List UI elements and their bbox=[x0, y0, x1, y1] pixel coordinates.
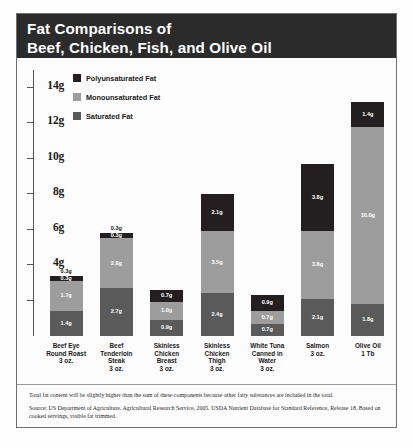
x-axis-label: BeefTenderloinSteak3 oz. bbox=[91, 342, 141, 372]
bar-segment: 0.7g bbox=[150, 290, 183, 302]
bar-segment: 1.8g bbox=[351, 304, 384, 336]
bar-segment: 0.7g bbox=[251, 311, 284, 323]
bar-segment-label: 0.7g bbox=[262, 315, 273, 321]
bar-segment: 1.0g bbox=[150, 302, 183, 320]
bar-column: 0.7g1.0g0.9g bbox=[150, 70, 183, 336]
chart-page: Fat Comparisons of Beef, Chicken, Fish, … bbox=[0, 0, 413, 448]
bar-column: 0.9g0.7g0.7g bbox=[251, 70, 284, 336]
bar-segment-label: 3.8g bbox=[312, 195, 323, 201]
x-axis-label-line: 3 oz. bbox=[192, 365, 242, 373]
y-axis-tick-mark bbox=[27, 193, 34, 194]
x-axis-label-line: 3 oz. bbox=[41, 357, 91, 365]
bar-column: 2.1g3.5g2.4g bbox=[201, 70, 234, 336]
x-axis-label-line: Olive Oil bbox=[343, 342, 393, 350]
footnote-total-fat: Total fat content will be slightly highe… bbox=[29, 391, 384, 399]
x-axis-labels: Beef EyeRound Roast3 oz.BeefTenderloinSt… bbox=[41, 342, 393, 384]
footnotes: Total fat content will be slightly highe… bbox=[17, 384, 396, 428]
x-axis-label-line: Tenderloin bbox=[91, 350, 141, 358]
x-axis-label-line: White Tuna bbox=[242, 342, 292, 350]
x-axis-label: White TunaCanned inWater3 oz. bbox=[242, 342, 292, 372]
bar-segment-label: 1.7g bbox=[61, 293, 72, 299]
x-axis-label: SkinlessChickenThigh3 oz. bbox=[192, 342, 242, 372]
bar-segment: 2.4g bbox=[201, 293, 234, 336]
bar-stack: 0.3g2.8g2.7g bbox=[100, 233, 133, 336]
bar-segment: 3.8g bbox=[301, 231, 334, 298]
bar-column: 3.8g3.8g2.1g bbox=[301, 70, 334, 336]
chart-title-line-1: Fat Comparisons of bbox=[27, 19, 396, 38]
bar-segment: 2.8g bbox=[100, 238, 133, 288]
bar-segment-label: 1.4g bbox=[61, 321, 72, 327]
bar-stack: 0.7g1.0g0.9g bbox=[150, 290, 183, 336]
x-axis-label-line: Thigh bbox=[192, 357, 242, 365]
bar-segment-label: 2.1g bbox=[211, 210, 222, 216]
x-axis-label-line: Salmon bbox=[292, 342, 342, 350]
x-axis-label-line: 3 oz. bbox=[142, 365, 192, 373]
bar-segment-label: 2.8g bbox=[111, 261, 122, 267]
bar-segment-label: 1.0g bbox=[161, 308, 172, 314]
bar-segment: 2.7g bbox=[100, 288, 133, 336]
x-axis-label-line: Round Roast bbox=[41, 350, 91, 358]
bar-segment-label: 0.7g bbox=[161, 293, 172, 299]
bar-segment: 1.4g bbox=[50, 311, 83, 336]
bar-segment: 2.1g bbox=[301, 299, 334, 336]
bar-segment-label: 0.9g bbox=[161, 325, 172, 331]
bar-group: 0.3g1.7g1.4g0.3g0.3g2.8g2.7g0.3g0.7g1.0g… bbox=[41, 70, 393, 336]
bar-segment: 10.0g bbox=[351, 127, 384, 304]
bar-segment: 1.7g bbox=[50, 281, 83, 311]
bar-stack: 1.4g10.0g1.8g bbox=[351, 102, 384, 336]
bar-column: 0.3g1.7g1.4g0.3g bbox=[50, 70, 83, 336]
bar-segment-label: 0.7g bbox=[262, 327, 273, 333]
x-axis-label-line: Chicken bbox=[142, 350, 192, 358]
bar-segment-label: 3.5g bbox=[211, 260, 222, 266]
footnote-source: Source: US Department of Agriculture, Ag… bbox=[29, 404, 384, 420]
x-axis-label-line: Canned in bbox=[242, 350, 292, 358]
x-axis-label-line: Steak bbox=[91, 357, 141, 365]
bar-segment: 1.4g bbox=[351, 102, 384, 127]
bar-segment-label: 3.8g bbox=[312, 262, 323, 268]
bar-segment: 0.9g bbox=[251, 295, 284, 311]
bar-segment-label: 2.7g bbox=[111, 309, 122, 315]
plot-area: 14g12g10g8g6g4g2g Polyunsaturated FatMon… bbox=[17, 58, 396, 384]
bar-segment-label: 1.4g bbox=[362, 112, 373, 118]
x-axis-label-line: Water bbox=[242, 357, 292, 365]
chart-title-line-2: Beef, Chicken, Fish, and Olive Oil bbox=[27, 38, 396, 57]
bar-segment: 0.7g bbox=[251, 324, 284, 336]
bar-column: 0.3g2.8g2.7g0.3g bbox=[100, 70, 133, 336]
y-axis-tick-mark bbox=[27, 300, 34, 301]
bar-stack: 2.1g3.5g2.4g bbox=[201, 194, 234, 336]
bar-top-label: 0.3g bbox=[100, 225, 133, 231]
x-axis-label-line: Skinless bbox=[142, 342, 192, 350]
x-axis-label-line: Chicken bbox=[192, 350, 242, 358]
bar-segment: 3.8g bbox=[301, 164, 334, 231]
y-axis-tick-mark bbox=[27, 122, 34, 123]
y-axis-line bbox=[33, 70, 34, 336]
bar-stack: 0.9g0.7g0.7g bbox=[251, 295, 284, 336]
bar-segment-label: 2.4g bbox=[211, 312, 222, 318]
bar-segment: 3.5g bbox=[201, 231, 234, 293]
bar-segment-label: 0.9g bbox=[262, 300, 273, 306]
y-axis-tick-mark bbox=[27, 87, 34, 88]
x-axis-label: Beef EyeRound Roast3 oz. bbox=[41, 342, 91, 365]
x-axis-label: SkinlessChickenBreast3 oz. bbox=[142, 342, 192, 372]
bar-segment-label: 2.1g bbox=[312, 315, 323, 321]
y-axis-tick-mark bbox=[27, 229, 34, 230]
y-axis-tick-mark bbox=[27, 158, 34, 159]
x-axis-label-line: 3 oz. bbox=[91, 365, 141, 373]
x-axis-label-line: Beef Eye bbox=[41, 342, 91, 350]
bar-column: 1.4g10.0g1.8g bbox=[351, 70, 384, 336]
bar-segment-label: 10.0g bbox=[361, 213, 375, 219]
bar-top-label: 0.3g bbox=[50, 268, 83, 274]
x-axis-label-line: Breast bbox=[142, 357, 192, 365]
x-axis-label: Salmon3 oz. bbox=[292, 342, 342, 357]
y-axis-tick-mark bbox=[27, 264, 34, 265]
bar-segment: 0.9g bbox=[150, 320, 183, 336]
title-banner: Fat Comparisons of Beef, Chicken, Fish, … bbox=[17, 14, 396, 58]
bar-stack: 0.3g1.7g1.4g bbox=[50, 276, 83, 336]
chart-frame: Fat Comparisons of Beef, Chicken, Fish, … bbox=[16, 13, 397, 428]
x-axis-label-line: 1 Tb bbox=[343, 350, 393, 358]
bar-stack: 3.8g3.8g2.1g bbox=[301, 164, 334, 336]
x-axis-label-line: Beef bbox=[91, 342, 141, 350]
x-axis-label-line: 3 oz. bbox=[292, 350, 342, 358]
x-axis-label-line: Skinless bbox=[192, 342, 242, 350]
x-axis-label-line: 3 oz. bbox=[242, 365, 292, 373]
